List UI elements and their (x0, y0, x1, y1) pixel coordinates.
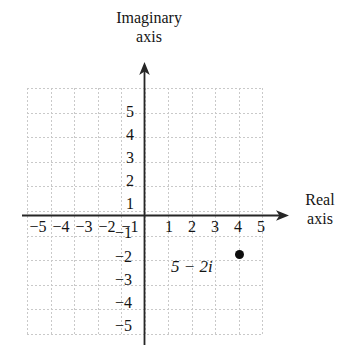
imaginary-tick-label-m4: −4 (110, 295, 132, 311)
real-tick-label-5: 5 (250, 219, 272, 235)
real-tick-label-1: 1 (158, 219, 180, 235)
imaginary-tick-label-4: 4 (112, 127, 134, 143)
real-tick-label-m4: −4 (50, 219, 72, 235)
axis-lines (0, 0, 349, 358)
imaginary-tick-label-2: 2 (112, 173, 134, 189)
plotted-point-label: 5 − 2i (171, 257, 213, 277)
plotted-point-marker (235, 250, 244, 259)
argand-diagram-figure: Imaginary axis Real axis 5 4 3 2 1 −1 −2… (0, 0, 349, 358)
real-tick-label-m3: −3 (73, 219, 95, 235)
imaginary-tick-label-m2: −2 (110, 249, 132, 265)
real-tick-label-2: 2 (181, 219, 203, 235)
real-tick-label-m2: −2 (96, 219, 118, 235)
imaginary-tick-label-m3: −3 (110, 272, 132, 288)
imaginary-tick-label-1: 1 (112, 196, 134, 212)
real-tick-label-3: 3 (204, 219, 226, 235)
imaginary-tick-label-5: 5 (112, 104, 134, 120)
imaginary-tick-label-3: 3 (112, 150, 134, 166)
real-tick-label-4: 4 (227, 219, 249, 235)
real-tick-label-m5: −5 (27, 219, 49, 235)
imaginary-tick-label-m5: −5 (110, 318, 132, 334)
real-tick-label-m1: −1 (119, 219, 141, 235)
